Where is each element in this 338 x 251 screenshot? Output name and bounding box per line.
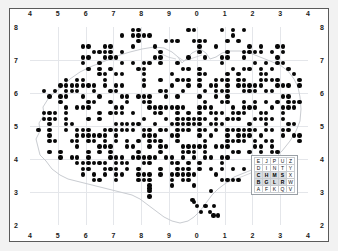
map-dot xyxy=(97,61,101,65)
map-dot xyxy=(81,128,85,132)
map-dot xyxy=(58,83,62,87)
map-dot xyxy=(297,139,301,143)
axis-tick-label: 7 xyxy=(107,231,119,240)
axis-tick-label: 8 xyxy=(135,231,147,240)
map-dot xyxy=(225,155,229,159)
map-dot xyxy=(86,167,90,171)
key-cell-b: B xyxy=(255,179,263,186)
map-dot xyxy=(64,94,68,98)
map-dot xyxy=(297,100,301,104)
map-dot xyxy=(259,83,263,87)
key-cell-u: U xyxy=(279,158,287,165)
map-dot xyxy=(81,105,85,109)
axis-tick-label: 6 xyxy=(11,89,21,98)
map-dot xyxy=(181,105,185,109)
axis-tick-label: 6 xyxy=(80,231,92,240)
key-cell-a: A xyxy=(255,186,263,193)
map-dot xyxy=(231,28,235,32)
map-dot xyxy=(197,167,201,171)
map-dot xyxy=(175,128,179,132)
map-dot xyxy=(103,55,107,59)
map-dot xyxy=(186,172,190,176)
map-dot xyxy=(175,117,179,121)
map-dot xyxy=(103,172,107,176)
map-dot xyxy=(158,167,162,171)
map-dot xyxy=(142,155,146,159)
map-dot xyxy=(147,144,151,148)
map-dot xyxy=(220,89,224,93)
map-dot xyxy=(186,161,190,165)
map-dot xyxy=(142,172,146,176)
map-dot xyxy=(36,128,40,132)
key-cell-s: S xyxy=(279,172,287,179)
map-dot xyxy=(136,28,140,32)
map-dot xyxy=(153,155,157,159)
map-dot xyxy=(286,100,290,104)
map-dot xyxy=(170,183,174,187)
map-dot xyxy=(108,50,112,54)
axis-tick-label: 7 xyxy=(317,56,327,65)
key-cell-j: J xyxy=(263,158,271,165)
axis-tick-label: 7 xyxy=(11,56,21,65)
map-dot xyxy=(158,55,162,59)
map-dot xyxy=(120,172,124,176)
map-dot xyxy=(197,105,201,109)
map-dot xyxy=(142,78,146,82)
map-dot xyxy=(281,105,285,109)
key-row: CHMSX xyxy=(255,172,295,179)
key-table: EJPUZDINTYCHMSXBGLRWAFKQV xyxy=(254,157,295,193)
key-cell-v: V xyxy=(287,186,295,193)
map-dot xyxy=(170,105,174,109)
axis-tick-label: 4 xyxy=(317,155,327,164)
map-dot xyxy=(270,78,274,82)
map-dot xyxy=(236,178,240,182)
map-dot xyxy=(181,117,185,121)
map-dot xyxy=(136,33,140,37)
key-cell-y: Y xyxy=(287,165,295,172)
map-dot xyxy=(186,28,190,32)
map-dot xyxy=(120,50,124,54)
map-dot xyxy=(86,133,90,137)
map-dot xyxy=(114,133,118,137)
map-frame: 45678901234 45678901234 8765432 8765432 … xyxy=(9,8,329,242)
map-dot xyxy=(86,117,90,121)
map-dot xyxy=(153,44,157,48)
map-dot xyxy=(181,172,185,176)
map-dot xyxy=(75,83,79,87)
map-dot xyxy=(225,133,229,137)
map-dot xyxy=(270,128,274,132)
axis-tick-label: 4 xyxy=(302,9,314,18)
map-dot xyxy=(275,83,279,87)
map-dot xyxy=(120,83,124,87)
map-dot xyxy=(181,144,185,148)
axis-tick-label: 5 xyxy=(11,122,21,131)
key-cell-d: D xyxy=(255,165,263,172)
map-dot xyxy=(120,33,124,37)
map-dot xyxy=(147,133,151,137)
axis-tick-label: 1 xyxy=(219,9,231,18)
key-cell-h: H xyxy=(263,172,271,179)
axis-tick-label: 5 xyxy=(52,231,64,240)
map-dot xyxy=(114,172,118,176)
map-dot xyxy=(186,128,190,132)
map-dot xyxy=(136,94,140,98)
key-cell-x: X xyxy=(287,172,295,179)
map-dot xyxy=(120,94,124,98)
key-cell-r: R xyxy=(279,179,287,186)
key-row: EJPUZ xyxy=(255,158,295,165)
key-cell-i: I xyxy=(263,165,271,172)
map-dot xyxy=(181,78,185,82)
map-dot xyxy=(247,150,251,154)
axis-tick-label: 9 xyxy=(163,9,175,18)
map-dot xyxy=(225,83,229,87)
map-dot xyxy=(108,167,112,171)
map-dot xyxy=(120,155,124,159)
map-dot xyxy=(281,133,285,137)
map-dot xyxy=(197,83,201,87)
map-dot xyxy=(170,83,174,87)
map-dot xyxy=(158,150,162,154)
map-dot xyxy=(158,128,162,132)
map-dot xyxy=(81,172,85,176)
key-cell-n: N xyxy=(271,165,279,172)
map-dot xyxy=(192,172,196,176)
